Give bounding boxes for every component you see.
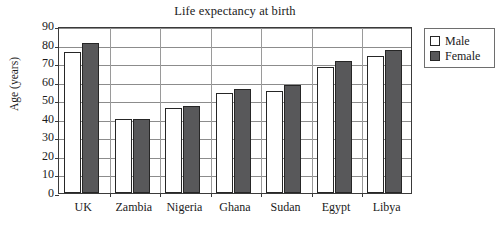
x-axis-tick-label: UK [58,200,109,215]
bar-group [160,28,211,193]
legend-item-female[interactable]: Female [430,48,490,63]
x-axis-tick-mark [211,193,212,197]
chart-title: Life expectancy at birth [58,4,412,19]
y-axis-tick-label: 50 [42,94,54,106]
bar-group [261,28,312,193]
y-axis-tick-label: 0 [48,187,54,199]
plot-area: 0102030405060708090 [58,27,412,194]
bar-male-nigeria[interactable] [165,108,182,193]
x-axis-tick-label: Sudan [260,200,311,215]
bar-group [59,28,110,193]
bar-male-egypt[interactable] [317,67,334,193]
bar-group [312,28,363,193]
y-axis-tick-label: 60 [42,76,54,88]
x-axis-tick-mark [160,193,161,197]
x-axis-tick-mark [312,193,313,197]
chart-legend: MaleFemale [424,28,495,68]
bar-male-libya[interactable] [367,56,384,193]
x-axis-tick-label: Zambia [109,200,160,215]
y-axis-tick-label: 20 [42,150,54,162]
y-axis-tick-label: 40 [42,113,54,125]
x-axis-tick-label: Egypt [311,200,362,215]
y-axis-tick-label: 30 [42,131,54,143]
bar-male-ghana[interactable] [216,93,233,193]
bar-female-egypt[interactable] [335,61,352,193]
legend-swatch-male-icon [430,36,440,46]
bar-male-uk[interactable] [64,52,81,193]
y-axis-tick-label: 80 [42,39,54,51]
bar-group [362,28,413,193]
legend-swatch-female-icon [430,51,440,61]
bar-female-sudan[interactable] [284,85,301,193]
bar-group [211,28,262,193]
legend-label: Male [445,35,470,47]
x-axis-tick-mark [362,193,363,197]
x-axis-tick-label: Nigeria [159,200,210,215]
bar-female-uk[interactable] [82,43,99,193]
y-axis-tick-label: 70 [42,57,54,69]
x-axis-tick-mark [110,193,111,197]
y-axis-tick-label: 90 [42,20,54,32]
legend-item-male[interactable]: Male [430,33,490,48]
legend-label: Female [445,50,480,62]
y-axis-tick-label: 10 [42,168,54,180]
chart-figure: Life expectancy at birth Age (years) 010… [0,0,501,232]
y-axis-tick-mark [55,195,59,196]
x-axis-tick-label: Libya [361,200,412,215]
bar-male-zambia[interactable] [115,119,132,193]
x-axis-tick-label: Ghana [210,200,261,215]
x-axis-tick-mark [261,193,262,197]
bar-female-nigeria[interactable] [183,106,200,193]
bar-female-ghana[interactable] [234,89,251,193]
bar-group [110,28,161,193]
bar-female-libya[interactable] [385,50,402,193]
bar-female-zambia[interactable] [133,119,150,193]
y-axis-label: Age (years) [8,44,20,124]
bar-male-sudan[interactable] [266,91,283,193]
